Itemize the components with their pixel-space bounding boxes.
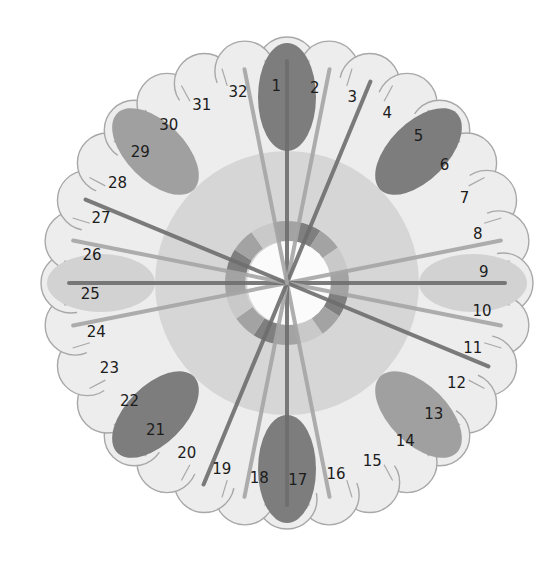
- petal-label-5: 5: [414, 127, 424, 145]
- petal-wheel-diagram: 1234567891011121314151617181920212223242…: [0, 0, 558, 564]
- petal-label-22: 22: [120, 392, 139, 410]
- petal-label-10: 10: [472, 302, 491, 320]
- petal-label-1: 1: [271, 77, 281, 95]
- wheel-svg: 1234567891011121314151617181920212223242…: [0, 0, 558, 564]
- petal-label-23: 23: [100, 359, 119, 377]
- petal-label-17: 17: [288, 471, 307, 489]
- petal-label-11: 11: [463, 339, 482, 357]
- petal-label-2: 2: [310, 79, 320, 97]
- petal-label-4: 4: [383, 104, 393, 122]
- petal-label-29: 29: [131, 143, 150, 161]
- petal-label-15: 15: [363, 452, 382, 470]
- petal-label-16: 16: [326, 465, 345, 483]
- petal-label-30: 30: [159, 116, 178, 134]
- petal-label-27: 27: [92, 209, 111, 227]
- petal-label-25: 25: [81, 285, 100, 303]
- petal-label-13: 13: [424, 405, 443, 423]
- petal-label-26: 26: [82, 246, 101, 264]
- petal-label-24: 24: [87, 323, 106, 341]
- petal-label-9: 9: [479, 263, 489, 281]
- petal-label-6: 6: [440, 156, 450, 174]
- petal-label-32: 32: [228, 83, 247, 101]
- petal-label-21: 21: [146, 421, 165, 439]
- petal-label-18: 18: [250, 469, 269, 487]
- petal-label-19: 19: [212, 460, 231, 478]
- petal-label-12: 12: [447, 374, 466, 392]
- petal-label-7: 7: [460, 189, 470, 207]
- petal-label-31: 31: [192, 96, 211, 114]
- petal-label-3: 3: [348, 88, 358, 106]
- petal-label-8: 8: [473, 225, 483, 243]
- petal-label-14: 14: [396, 432, 415, 450]
- petal-label-20: 20: [177, 444, 196, 462]
- petal-label-28: 28: [108, 174, 127, 192]
